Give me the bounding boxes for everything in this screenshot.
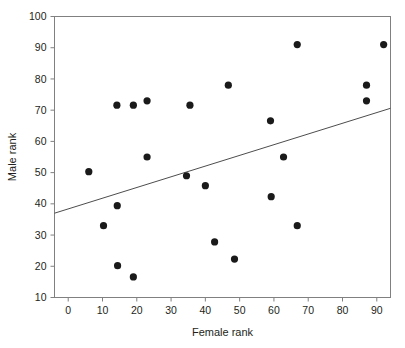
x-tick-label: 90 bbox=[371, 304, 383, 316]
data-point bbox=[85, 168, 92, 175]
data-point bbox=[202, 182, 209, 189]
data-point bbox=[380, 41, 387, 48]
data-point bbox=[114, 262, 121, 269]
x-tick-label: 20 bbox=[131, 304, 143, 316]
data-point bbox=[211, 238, 218, 245]
data-point bbox=[113, 102, 120, 109]
data-point bbox=[143, 97, 150, 104]
y-tick-label: 50 bbox=[35, 166, 47, 178]
y-axis-label: Male rank bbox=[6, 132, 18, 181]
x-axis-label: Female rank bbox=[192, 326, 254, 338]
x-tick-label: 30 bbox=[165, 304, 177, 316]
y-tick-label: 80 bbox=[35, 73, 47, 85]
data-points bbox=[85, 41, 387, 280]
trendline bbox=[55, 108, 391, 213]
y-tick-label: 30 bbox=[35, 229, 47, 241]
data-point bbox=[231, 255, 238, 262]
data-point bbox=[268, 193, 275, 200]
data-point bbox=[363, 82, 370, 89]
x-tick-label: 80 bbox=[337, 304, 349, 316]
scatter-plot-figure: 102030405060708090100 010203040506070809… bbox=[0, 0, 405, 348]
data-point bbox=[143, 153, 150, 160]
x-tick-label: 60 bbox=[268, 304, 280, 316]
y-tick-label: 70 bbox=[35, 104, 47, 116]
data-point bbox=[225, 82, 232, 89]
x-tick-label: 0 bbox=[65, 304, 71, 316]
data-point bbox=[363, 97, 370, 104]
data-point bbox=[280, 153, 287, 160]
x-tick-label: 10 bbox=[97, 304, 109, 316]
y-tick-label: 40 bbox=[35, 197, 47, 209]
y-tick-label: 90 bbox=[35, 41, 47, 53]
plot-frame bbox=[55, 17, 391, 298]
data-point bbox=[130, 102, 137, 109]
y-tick-label: 10 bbox=[35, 291, 47, 303]
data-point bbox=[100, 222, 107, 229]
y-tick-label: 100 bbox=[29, 10, 47, 22]
x-tick-label: 50 bbox=[234, 304, 246, 316]
data-point bbox=[294, 41, 301, 48]
data-point bbox=[130, 273, 137, 280]
x-axis-ticks: 0102030405060708090 bbox=[65, 298, 382, 316]
data-point bbox=[183, 172, 190, 179]
regression-line bbox=[55, 108, 391, 213]
y-axis-ticks: 102030405060708090100 bbox=[29, 10, 55, 303]
x-tick-label: 40 bbox=[200, 304, 212, 316]
y-tick-label: 60 bbox=[35, 135, 47, 147]
y-tick-label: 20 bbox=[35, 260, 47, 272]
data-point bbox=[186, 102, 193, 109]
data-point bbox=[114, 202, 121, 209]
chart-canvas: 102030405060708090100 010203040506070809… bbox=[0, 0, 405, 348]
data-point bbox=[267, 117, 274, 124]
x-tick-label: 70 bbox=[302, 304, 314, 316]
data-point bbox=[294, 222, 301, 229]
